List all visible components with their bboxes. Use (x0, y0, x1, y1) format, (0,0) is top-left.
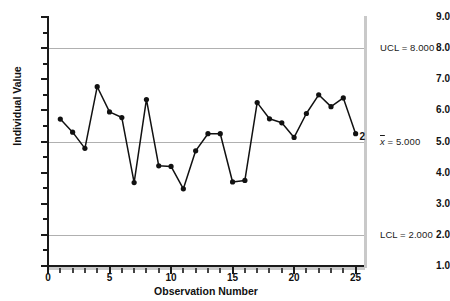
series-line (60, 87, 355, 189)
data-point (132, 180, 137, 185)
data-point (230, 179, 235, 184)
data-point (341, 95, 346, 100)
data-point (193, 148, 198, 153)
data-point (119, 115, 124, 120)
data-point (316, 92, 321, 97)
data-point (291, 135, 296, 140)
data-point (107, 109, 112, 114)
data-point (242, 178, 247, 183)
data-point (70, 130, 75, 135)
data-point (82, 146, 87, 151)
data-point (156, 163, 161, 168)
data-point (218, 131, 223, 136)
individuals-control-chart: UCL = 8.000 x = 5.000 LCL = 2.000 1.02.0… (0, 0, 450, 301)
data-point (58, 116, 63, 121)
y-axis-title: Individual Value (11, 31, 23, 181)
data-point (168, 164, 173, 169)
data-point (144, 97, 149, 102)
data-point (267, 116, 272, 121)
data-point (328, 104, 333, 109)
x-axis-title: Observation Number (48, 285, 364, 297)
data-point (304, 111, 309, 116)
data-point (95, 84, 100, 89)
data-point (255, 100, 260, 105)
data-point (181, 186, 186, 191)
data-series-layer (0, 0, 450, 301)
data-point (279, 120, 284, 125)
data-point (205, 131, 210, 136)
data-point (353, 131, 358, 136)
violation-annotation: 2 (360, 131, 366, 142)
